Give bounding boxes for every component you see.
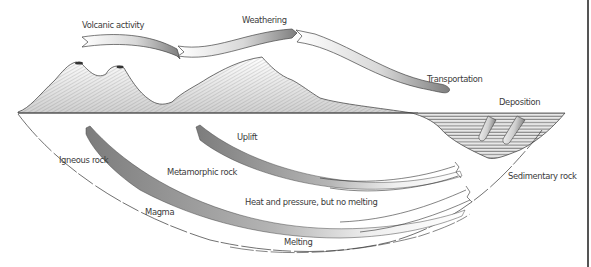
label-melting: Melting [284,238,313,246]
label-sedimentary-rock: Sedimentary rock [508,172,576,180]
arrow-uplift [196,125,462,189]
label-metamorphic-rock: Metamorphic rock [167,168,237,176]
right-border [587,0,589,267]
rock-cycle-diagram: Volcanic activity Weathering Transportat… [0,0,591,267]
arrow-volcanic-to-weathering [82,35,180,59]
volcano-crater-2 [117,66,124,69]
label-uplift: Uplift [237,133,257,141]
arrow-weathering-segment [178,29,297,57]
label-igneous-rock: Igneous rock [59,156,108,164]
label-magma: Magma [145,208,174,216]
label-weathering: Weathering [242,16,287,24]
label-heat-pressure: Heat and pressure, but no melting [245,198,377,206]
volcano-crater-1 [75,61,83,64]
label-transportation: Transportation [427,75,483,83]
heat-pressure-arrowhead [466,186,472,202]
label-deposition: Deposition [499,98,540,106]
label-volcanic-activity: Volcanic activity [82,21,144,29]
diagram-graphics [0,0,591,267]
mountain-range [18,57,412,113]
